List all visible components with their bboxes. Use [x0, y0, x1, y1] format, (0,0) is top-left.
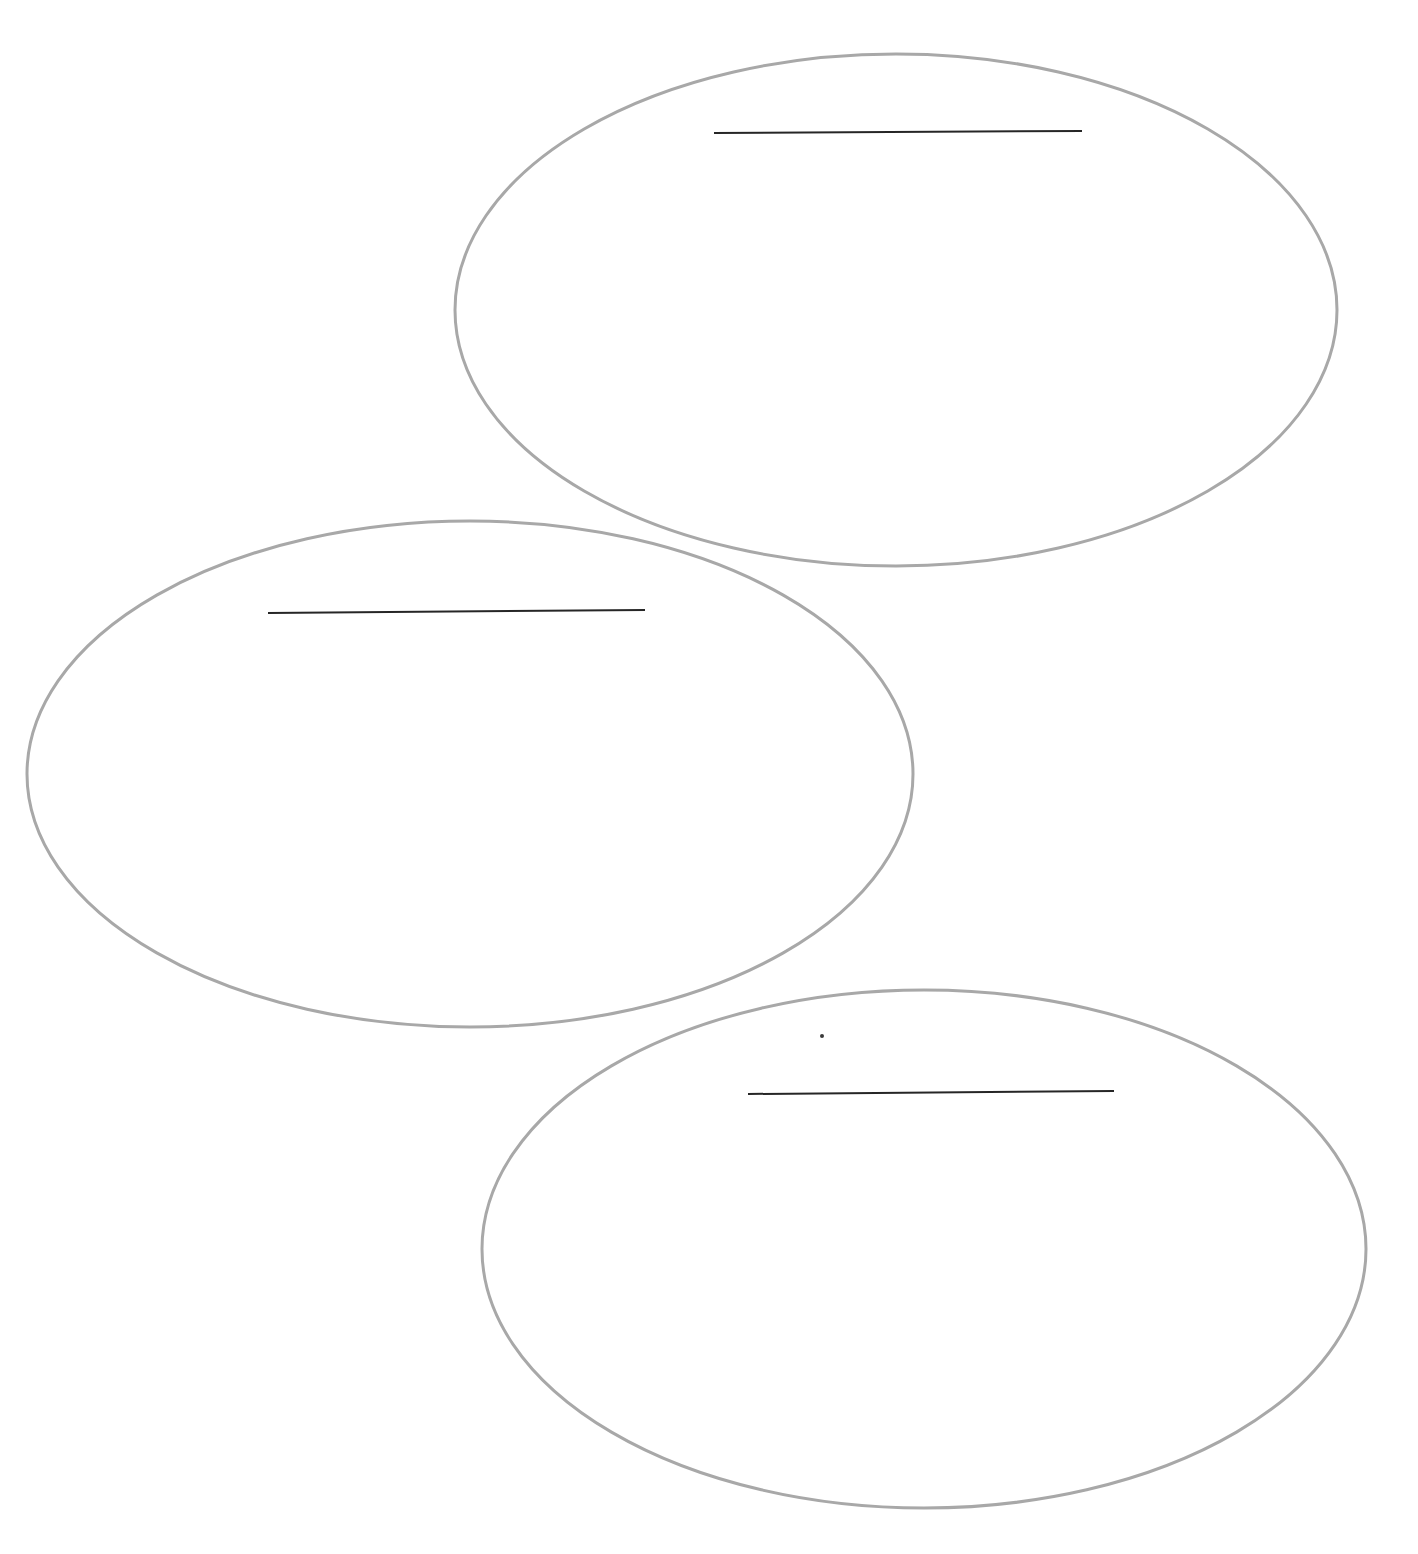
worksheet-page [0, 0, 1418, 1554]
worksheet-canvas [0, 0, 1418, 1554]
page-background [0, 0, 1418, 1554]
stray-dot-icon [820, 1034, 824, 1038]
